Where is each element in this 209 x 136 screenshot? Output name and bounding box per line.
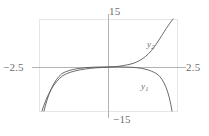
curve-label-y2: y2: [147, 40, 154, 49]
curve-label-y1: y1: [141, 82, 148, 91]
x-max-tick-label: 2.5: [186, 62, 200, 73]
plot-canvas: [0, 0, 209, 136]
chart-figure: 15 −15 −2.5 2.5 y2 y1: [0, 0, 209, 136]
plot-area: 15 −15 −2.5 2.5 y2 y1: [0, 0, 209, 136]
x-min-tick-label: −2.5: [3, 62, 24, 73]
